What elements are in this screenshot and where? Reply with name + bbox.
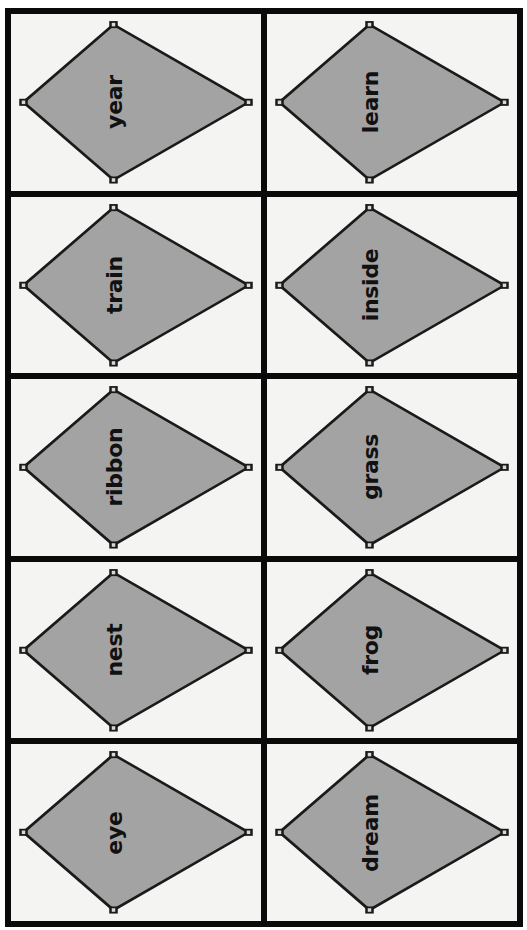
kite-shape-icon (11, 197, 261, 374)
kite-shape-icon (267, 744, 517, 921)
kite-shape-icon (267, 14, 517, 191)
card-word: train (101, 256, 126, 314)
word-card-learn[interactable]: learn (267, 14, 517, 191)
card-word: ribbon (101, 428, 126, 507)
word-card-train[interactable]: train (11, 197, 261, 374)
kite-shape-icon (267, 379, 517, 556)
card-word: year (101, 75, 126, 129)
card-word: eye (101, 811, 126, 854)
card-word: frog (357, 625, 382, 675)
word-card-frog[interactable]: frog (267, 562, 517, 739)
kite-shape-icon (267, 562, 517, 739)
card-word: learn (357, 71, 382, 133)
word-card-eye[interactable]: eye (11, 744, 261, 921)
word-card-sheet: year learn train inside (5, 8, 523, 927)
word-card-year[interactable]: year (11, 14, 261, 191)
card-word: inside (357, 249, 382, 322)
kite-shape-icon (267, 197, 517, 374)
card-word: nest (101, 624, 126, 677)
card-word: dream (357, 794, 382, 872)
word-card-nest[interactable]: nest (11, 562, 261, 739)
word-card-inside[interactable]: inside (267, 197, 517, 374)
word-card-grass[interactable]: grass (267, 379, 517, 556)
word-card-dream[interactable]: dream (267, 744, 517, 921)
kite-shape-icon (11, 379, 261, 556)
kite-shape-icon (11, 562, 261, 739)
kite-shape-icon (11, 14, 261, 191)
kite-shape-icon (11, 744, 261, 921)
card-word: grass (357, 434, 382, 500)
word-card-ribbon[interactable]: ribbon (11, 379, 261, 556)
